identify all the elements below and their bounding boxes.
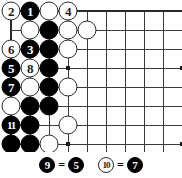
caption-stone-7: 7: [127, 157, 143, 173]
white-stone[interactable]: [78, 21, 97, 40]
move-stone-7[interactable]: 7: [2, 78, 21, 97]
move-stone-1[interactable]: 1: [21, 2, 40, 21]
black-stone[interactable]: [40, 21, 59, 40]
white-stone[interactable]: [21, 21, 40, 40]
white-stone[interactable]: [40, 135, 59, 153]
go-diagram-root: 2146358711 9=510=7: [0, 0, 182, 178]
move-stone-5[interactable]: 5: [2, 59, 21, 78]
black-stone[interactable]: [21, 97, 40, 116]
white-stone[interactable]: [59, 21, 78, 40]
move-stone-4[interactable]: 4: [59, 2, 78, 21]
caption-equals: =: [117, 158, 124, 173]
move-stone-2[interactable]: 2: [2, 2, 21, 21]
white-stone[interactable]: [59, 40, 78, 59]
black-stone[interactable]: [2, 135, 21, 153]
move-stone-6[interactable]: 6: [2, 40, 21, 59]
caption-entry: 10=7: [98, 157, 143, 173]
black-stone[interactable]: [40, 40, 59, 59]
caption-stone-9: 9: [39, 157, 55, 173]
move-stone-11[interactable]: 11: [2, 116, 21, 135]
white-stone[interactable]: [40, 2, 59, 21]
move-stone-3[interactable]: 3: [21, 40, 40, 59]
white-stone[interactable]: [59, 116, 78, 135]
move-stone-8[interactable]: 8: [21, 59, 40, 78]
caption-equals: =: [58, 158, 65, 173]
go-board[interactable]: 2146358711: [0, 0, 182, 152]
white-stone[interactable]: [2, 97, 21, 116]
white-stone[interactable]: [21, 78, 40, 97]
caption-entry: 9=5: [39, 157, 84, 173]
black-stone[interactable]: [40, 59, 59, 78]
caption-stone-10: 10: [98, 157, 114, 173]
white-stone[interactable]: [59, 78, 78, 97]
black-stone[interactable]: [21, 135, 40, 153]
black-stone[interactable]: [21, 116, 40, 135]
black-stone[interactable]: [40, 97, 59, 116]
diagram-caption: 9=510=7: [0, 152, 182, 178]
black-stone[interactable]: [40, 78, 59, 97]
caption-stone-5: 5: [68, 157, 84, 173]
